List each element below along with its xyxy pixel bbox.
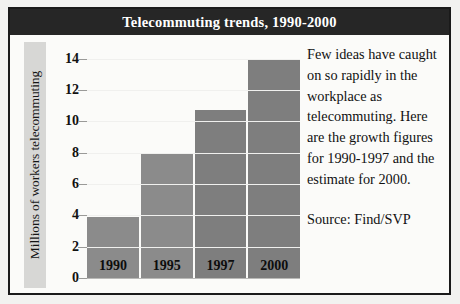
y-tick-mark bbox=[78, 121, 87, 122]
chart-area: Millions of workers telecommuting 199019… bbox=[12, 38, 300, 293]
y-tick-label: 2 bbox=[49, 240, 79, 254]
y-tick-mark bbox=[78, 184, 87, 185]
page-title: Telecommuting trends, 1990-2000 bbox=[122, 15, 336, 30]
title-bar: Telecommuting trends, 1990-2000 bbox=[10, 9, 449, 35]
x-category-label: 1990 bbox=[87, 259, 139, 273]
infographic: Telecommuting trends, 1990-2000 Millions… bbox=[0, 0, 460, 304]
y-tick-mark bbox=[78, 153, 87, 154]
y-tick-mark bbox=[78, 59, 87, 60]
y-tick-mark bbox=[78, 90, 87, 91]
bar-1997[interactable]: 1997 bbox=[195, 110, 247, 278]
gridline-over-bar bbox=[87, 153, 300, 154]
commentary-paragraph: Few ideas have caught on so rapidly in t… bbox=[307, 44, 447, 190]
gridline-over-bar bbox=[87, 215, 300, 216]
y-tick-label: 8 bbox=[49, 146, 79, 160]
x-category-label: 1997 bbox=[195, 259, 247, 273]
source-line: Source: Find/SVP bbox=[307, 209, 447, 230]
y-tick-mark bbox=[78, 278, 87, 279]
y-axis-label: Millions of workers telecommuting bbox=[27, 71, 43, 259]
x-category-label: 1995 bbox=[141, 259, 193, 273]
y-tick-label: 10 bbox=[49, 114, 79, 128]
x-category-label: 2000 bbox=[248, 259, 300, 273]
gridline bbox=[87, 278, 300, 279]
y-tick-mark bbox=[78, 247, 87, 248]
gridline-over-bar bbox=[87, 121, 300, 122]
plot-area: 1990199519972000 02468101214 bbox=[87, 46, 300, 278]
gridline-over-bar bbox=[87, 90, 300, 91]
y-tick-label: 0 bbox=[49, 271, 79, 285]
y-tick-label: 14 bbox=[49, 52, 79, 66]
gridline-over-bar bbox=[87, 184, 300, 185]
bar-2000[interactable]: 2000 bbox=[248, 60, 300, 278]
gridline-over-bar bbox=[87, 247, 300, 248]
y-tick-label: 12 bbox=[49, 83, 79, 97]
y-tick-label: 4 bbox=[49, 208, 79, 222]
y-tick-mark bbox=[78, 215, 87, 216]
bar-series: 1990199519972000 bbox=[87, 46, 300, 278]
commentary-block: Few ideas have caught on so rapidly in t… bbox=[307, 44, 447, 229]
gridline-over-bar bbox=[87, 59, 300, 60]
y-tick-label: 6 bbox=[49, 177, 79, 191]
y-axis-label-band: Millions of workers telecommuting bbox=[24, 42, 46, 288]
